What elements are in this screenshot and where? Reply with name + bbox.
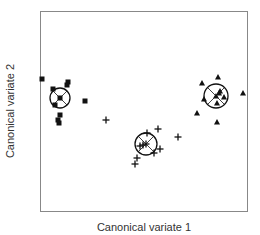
triangle-marker bbox=[214, 100, 220, 106]
plus-marker bbox=[155, 126, 162, 133]
square-marker bbox=[51, 87, 56, 92]
square-marker bbox=[40, 77, 45, 82]
triangle-marker bbox=[215, 74, 221, 80]
scatter-plot bbox=[0, 0, 260, 235]
plot-frame bbox=[41, 12, 248, 212]
data-markers bbox=[40, 74, 247, 168]
square-marker bbox=[53, 103, 58, 108]
triangle-marker bbox=[214, 119, 220, 125]
plus-marker bbox=[144, 130, 151, 137]
square-marker bbox=[65, 83, 70, 88]
plus-marker bbox=[175, 134, 182, 141]
y-axis-label: Canonical variate 2 bbox=[4, 51, 18, 171]
plus-marker bbox=[132, 161, 139, 168]
x-axis-label: Canonical variate 1 bbox=[40, 221, 248, 233]
centroid-square-marker bbox=[58, 96, 63, 101]
square-marker bbox=[83, 99, 88, 104]
plus-marker bbox=[157, 146, 164, 153]
plus-marker bbox=[134, 155, 141, 162]
square-marker bbox=[58, 113, 63, 118]
square-marker bbox=[57, 121, 62, 126]
triangle-marker bbox=[201, 96, 207, 102]
triangle-marker bbox=[199, 80, 205, 86]
plus-marker bbox=[151, 150, 158, 157]
triangle-marker bbox=[240, 90, 246, 96]
triangle-marker bbox=[194, 110, 200, 116]
triangle-marker bbox=[221, 94, 227, 100]
plus-marker bbox=[103, 117, 110, 124]
